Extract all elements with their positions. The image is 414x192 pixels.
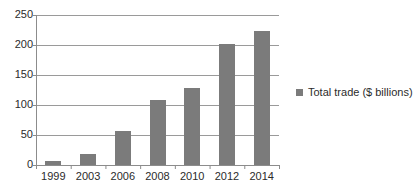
bar-1999 (45, 161, 61, 165)
x-tick-label-2012: 2012 (210, 170, 245, 182)
bar-2012 (219, 44, 235, 165)
bar-2014 (254, 31, 270, 165)
bar-2003 (80, 154, 96, 165)
x-tick-label-2014: 2014 (244, 170, 279, 182)
x-tick-label-2003: 2003 (71, 170, 106, 182)
y-tick-label: 150 (6, 69, 33, 80)
y-tick-label: 250 (6, 9, 33, 20)
chart-legend: Total trade ($ billions) (296, 86, 413, 98)
x-tick-label-2008: 2008 (140, 170, 175, 182)
x-axis-tick-labels: 1999200320062008201020122014 (36, 170, 280, 188)
bar-2010 (184, 88, 200, 165)
x-tick-label-2010: 2010 (175, 170, 210, 182)
y-tick-label: 50 (6, 129, 33, 140)
y-tick-label: 200 (6, 39, 33, 50)
y-tick-label: 0 (6, 159, 33, 170)
x-tick-label-2006: 2006 (105, 170, 140, 182)
legend-item-label: Total trade ($ billions) (308, 86, 413, 98)
bar-2008 (150, 100, 166, 165)
y-tick-label: 100 (6, 99, 33, 110)
x-tick-label-1999: 1999 (36, 170, 71, 182)
legend-square-marker-icon (296, 89, 303, 96)
bar-2006 (115, 131, 131, 165)
y-axis-tick-labels: 050100150200250 (6, 0, 33, 192)
bar-chart: 050100150200250 199920032006200820102012… (0, 0, 414, 192)
